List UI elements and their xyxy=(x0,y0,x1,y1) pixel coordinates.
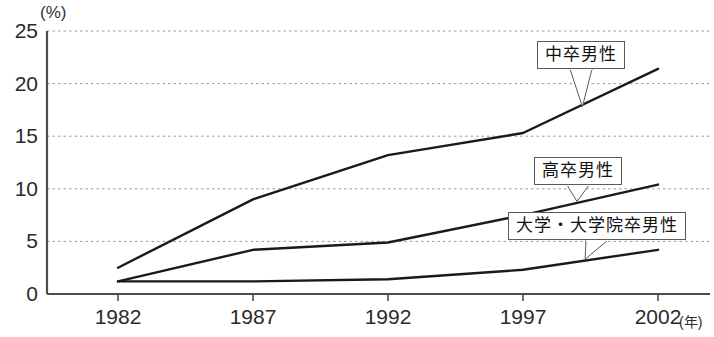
x-tick-label-1997: 1997 xyxy=(500,305,547,329)
callout-label-2: 大学・大学院卒男性 xyxy=(508,212,686,240)
y-tick-label-25: 25 xyxy=(0,19,38,43)
x-tick-label-1987: 1987 xyxy=(230,305,277,329)
y-tick-label-5: 5 xyxy=(0,229,38,253)
x-tick-label-1992: 1992 xyxy=(365,305,412,329)
callout-pointer-1 xyxy=(567,185,589,201)
chart-container: (%) 0510152025 19821987199219972002 (年) … xyxy=(0,0,714,337)
x-axis-unit-label: (年) xyxy=(679,311,702,331)
y-tick-label-0: 0 xyxy=(0,282,38,306)
series-line-2 xyxy=(118,250,658,282)
y-tick-label-10: 10 xyxy=(0,177,38,201)
x-tick-label-2002: 2002 xyxy=(635,305,682,329)
x-tick-label-1982: 1982 xyxy=(95,305,142,329)
callout-label-1: 高卒男性 xyxy=(534,157,622,185)
y-tick-label-20: 20 xyxy=(0,72,38,96)
callout-pointer-2 xyxy=(585,240,608,259)
callout-label-0: 中卒男性 xyxy=(537,41,625,69)
y-tick-label-15: 15 xyxy=(0,124,38,148)
